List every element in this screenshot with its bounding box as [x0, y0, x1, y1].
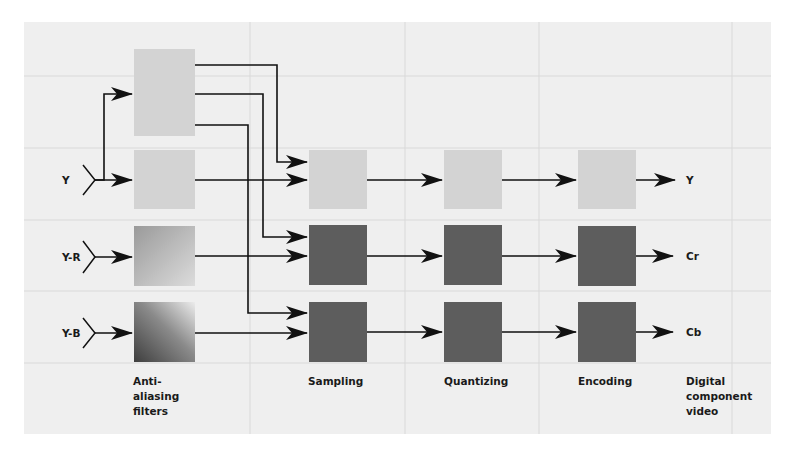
encoding-y-box — [578, 150, 636, 209]
antialias-y-box — [134, 150, 195, 209]
input-label-y: Y — [61, 174, 70, 186]
output-label-cr: Cr — [686, 250, 700, 262]
sampling-yr-box — [309, 225, 367, 285]
stage-label-line: filters — [133, 405, 168, 417]
stage-label-quantizing: Quantizing — [444, 375, 508, 387]
input-label-yr: Y-R — [61, 251, 81, 263]
output-label-cb: Cb — [686, 326, 702, 338]
stage-label-encoding: Encoding — [578, 375, 632, 387]
stage-label-line: component — [686, 390, 752, 402]
encoding-yb-box — [578, 302, 636, 362]
quantizing-yb-box — [444, 302, 502, 362]
antialias-yb-box — [134, 302, 195, 362]
sampling-y-box — [309, 150, 367, 209]
antialias-clock-box — [134, 49, 195, 136]
stage-label-line: Anti- — [133, 375, 162, 387]
stage-label-line: Digital — [686, 375, 725, 387]
sampling-yb-box — [309, 302, 367, 362]
component-video-diagram: Y Y-R Y-B Y Cr Cb Anti- aliasing filters… — [0, 0, 794, 454]
stage-label-line: Quantizing — [444, 375, 508, 387]
stage-label-line: Encoding — [578, 375, 632, 387]
stage-label-line: video — [686, 405, 718, 417]
quantizing-y-box — [444, 150, 502, 209]
stage-label-line: aliasing — [133, 390, 179, 402]
output-label-y: Y — [685, 174, 694, 186]
encoding-yr-box — [578, 226, 636, 286]
antialias-yr-box — [134, 226, 195, 286]
input-label-yb: Y-B — [61, 327, 80, 339]
stage-label-sampling: Sampling — [308, 375, 363, 387]
quantizing-yr-box — [444, 225, 502, 285]
stage-label-line: Sampling — [308, 375, 363, 387]
